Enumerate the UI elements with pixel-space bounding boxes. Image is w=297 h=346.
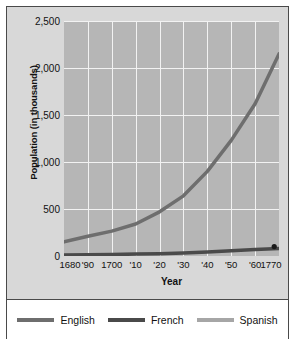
x-tick-label: '10	[129, 259, 141, 270]
x-tick-label: 1770	[260, 259, 281, 270]
y-tick-label: 1,000	[35, 157, 60, 168]
x-tick-label: '90	[82, 259, 94, 270]
legend-swatch-icon	[108, 318, 145, 322]
legend-item-french[interactable]: French	[108, 314, 184, 326]
chart-figure: Population (in thousands) 2,5002,0001,50…	[6, 6, 289, 339]
x-tick-label: 1700	[101, 259, 122, 270]
x-axis-tick-labels: 1680'901700'10'20'30'40'50'601770	[64, 259, 279, 275]
y-tick-label: 2,000	[35, 63, 60, 74]
legend-label: Spanish	[240, 314, 278, 326]
legend-label: French	[151, 314, 184, 326]
x-tick-label: '40	[201, 259, 213, 270]
y-tick-label: 500	[43, 204, 60, 215]
x-tick-label: '20	[153, 259, 165, 270]
x-tick-label: 1680	[59, 259, 80, 270]
series-line-french	[64, 248, 279, 255]
series-lines	[64, 21, 279, 256]
legend-label: English	[60, 314, 94, 326]
legend-swatch-icon	[197, 318, 234, 322]
chart-legend: EnglishFrenchSpanish	[7, 299, 288, 339]
y-tick-label: 2,500	[35, 16, 60, 27]
x-tick-label: '50	[225, 259, 237, 270]
legend-swatch-icon	[17, 318, 54, 322]
y-tick-label: 1,500	[35, 110, 60, 121]
data-point-marker	[272, 244, 277, 249]
series-line-english	[64, 54, 279, 242]
legend-item-spanish[interactable]: Spanish	[197, 314, 278, 326]
y-axis-tick-labels: 2,5002,0001,5001,0005000	[7, 21, 60, 256]
chart-plot-block: Population (in thousands) 2,5002,0001,50…	[7, 7, 288, 295]
x-tick-label: '30	[177, 259, 189, 270]
legend-item-english[interactable]: English	[17, 314, 94, 326]
plot-area	[64, 21, 279, 256]
x-axis-title: Year	[64, 276, 279, 287]
